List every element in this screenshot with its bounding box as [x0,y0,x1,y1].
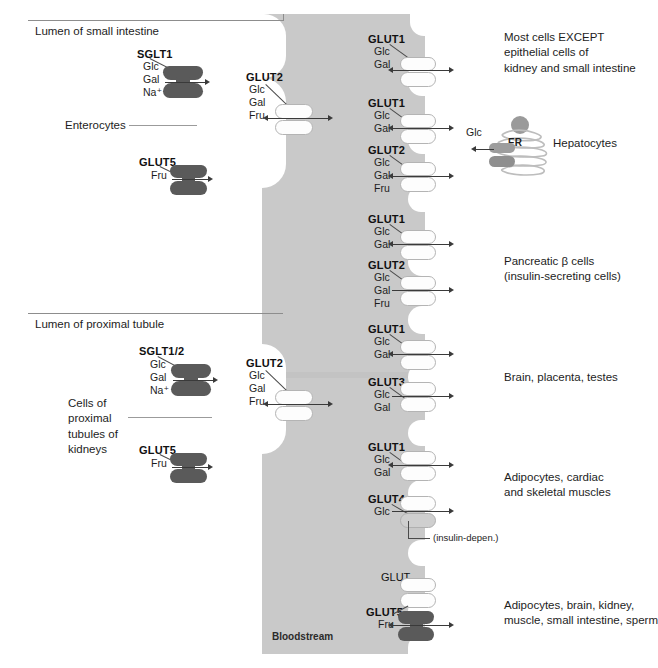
flow-arrow-glut5-intestine [172,179,210,180]
flow-arrowhead-sglt1 [205,79,210,85]
flow-arrowhead-right-glut4 [449,508,454,514]
flow-arrowhead-left-glut5-blood [388,622,393,628]
intestine-lumen-rule-tick [283,14,284,21]
flow-arrow-sglt1 [165,82,207,83]
flow-arrowhead-left-glut1-6 [388,351,393,357]
transporter-hepatocyte-er [489,143,515,167]
flow-arrow-glut3 [392,396,451,397]
transporter-lobe-lower [489,156,515,167]
flow-arrowhead-left-glut1-2 [388,125,393,131]
glut4-insulin-note: (insulin-depen.) [433,532,498,545]
flow-arrowhead-right-glut2-5 [449,287,454,293]
transporter-lobe-lower [170,469,207,483]
kidney-cell-leader [128,417,212,418]
transporter-lobe-upper [400,276,436,290]
flow-arrowhead-right-glut1-1 [449,67,454,73]
transporter-glut5-intestine [170,165,207,195]
transporter-lobe-upper [400,496,436,511]
substrate-sglt1-gal: Gal [143,73,159,87]
substrate-glut2-intestine-gal: Gal [249,96,265,110]
flow-arrowhead-right-glut2-3 [449,173,454,179]
glut4-bracket-horizontal [408,538,430,539]
substrate-glut2-kidney-gal: Gal [249,382,265,396]
transporter-lobe-upper [400,57,436,71]
flow-arrow-glut1-4 [393,244,451,245]
transporter-lobe-lower [400,129,436,144]
substrate-glut3-gal: Gal [374,401,390,415]
transporter-name-sglt12: SGLT1/2 [139,344,184,359]
transporter-lobe-upper [275,104,313,119]
transporter-glut4-lower [400,513,434,528]
flow-arrowhead-right-glut1-6 [449,351,454,357]
flow-arrow-glut5-blood [393,625,451,626]
flow-arrow-glut5-kidney [172,467,210,468]
substrate-glut1-8-gal: Gal [374,466,390,480]
transporter-lobe-lower [400,513,436,528]
transporter-lobe-lower [400,177,436,192]
substrate-glut2-intestine-glc: Glc [249,83,265,97]
substrate-hepatocyte-glc: Glc [466,126,482,140]
substrate-sglt12-na: Na⁺ [150,384,169,398]
transporter-glut-generic [400,578,434,606]
tissue-label-adipocytes-brain-kidney: Adipocytes, brain, kidney, muscle, small… [504,598,658,629]
substrate-glut2-3-glc: Glc [374,156,390,170]
flow-arrowhead-right-glut2-kidney [328,401,333,407]
flow-arrowhead-left-glut1-8 [388,462,393,468]
bloodstream-label: Bloodstream [272,630,333,643]
flow-arrowhead-right-glut5-blood [449,622,454,628]
glut4-bracket-vertical [408,521,409,538]
transporter-lobe-upper [400,451,436,465]
transporter-lobe-upper [275,390,313,405]
flow-arrow-glut1-6 [393,354,451,355]
substrate-glut1-1-glc: Glc [374,45,390,59]
transporter-lobe-lower [275,120,313,135]
transporter-lobe-upper [400,114,436,128]
flow-arrow-glut1-1 [393,70,451,71]
transporter-lobe-lower [275,406,313,421]
tissue-label-adipocytes-cardiac: Adipocytes, cardiac and skeletal muscles [504,470,611,501]
transporter-lobe-upper [400,382,436,396]
flow-arrow-glut1-2 [393,128,451,129]
transporter-lobe-lower [400,72,436,87]
intestine-cell-leader [129,125,197,126]
transporter-lobe-lower [398,627,434,641]
tissue-label-hepatocytes: Hepatocytes [553,136,617,151]
substrate-glut1-2-glc: Glc [374,109,390,123]
substrate-glut2-5-fru: Fru [374,297,390,311]
transporter-lobe-upper [400,578,436,592]
flow-arrowhead-sglt12 [213,377,218,383]
intestine-lumen-label: Lumen of small intestine [35,24,159,39]
flow-arrowhead-left-glut2-intestine [263,115,268,121]
transporter-lobe-lower [400,245,436,260]
flow-arrow-glut2-5 [392,290,451,291]
transporter-lobe-lower [400,291,436,306]
kidney-lumen-rule [28,313,283,314]
flow-arrowhead-right-glut2-intestine [328,115,333,121]
transporter-glut5-kidney [170,453,207,483]
flow-arrowhead-left-glut1-1 [388,67,393,73]
transporter-lobe-lower [400,355,436,370]
flow-arrow-glut2-3 [393,176,451,177]
kidney-cell-label: Cells of proximal tubules of kidneys [68,396,118,457]
flow-arrow-glut1-8 [393,465,451,466]
intestine-cell-label: Enterocytes [65,118,126,133]
flow-arrow-sglt12 [173,380,215,381]
substrate-glut2-kidney-glc: Glc [249,369,265,383]
transporter-glut5-blood [398,611,434,641]
transporter-glut4-upper [400,496,434,511]
transporter-lobe-upper [400,230,436,244]
flow-arrowhead-right-glut1-2 [449,125,454,131]
kidney-lumen-label: Lumen of proximal tubule [35,317,164,332]
flow-arrow-glut4 [392,511,451,512]
substrate-glut5-intestine-fru: Fru [151,169,167,183]
flow-arrowhead-right-glut1-8 [449,462,454,468]
flow-arrowhead-left-glut1-4 [388,241,393,247]
flow-arrowhead-left-glut2-kidney [263,401,268,407]
substrate-glut1-6-glc: Glc [374,335,390,349]
transporter-lobe-upper [400,162,436,176]
transporter-lobe-lower [400,466,436,481]
substrate-glut2-3-fru: Fru [374,182,390,196]
transporter-lobe-lower [400,397,436,412]
flow-arrowhead-glut5-intestine [208,176,213,182]
